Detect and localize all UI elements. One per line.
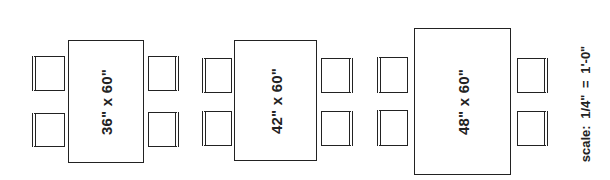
chair-t2-left-top bbox=[202, 58, 232, 93]
table-36x60: 36" x 60" bbox=[68, 40, 144, 163]
chair-t3-left-bottom bbox=[377, 110, 408, 146]
table-42x60: 42" x 60" bbox=[234, 40, 317, 161]
chair-t2-left-bottom bbox=[202, 111, 232, 146]
chair-t3-right-top bbox=[517, 58, 548, 93]
chair-t1-right-top bbox=[148, 56, 179, 91]
scale-label: scale: 1/4" = 1'-0" bbox=[578, 46, 593, 163]
chair-t1-right-bottom bbox=[148, 112, 179, 147]
table-36x60-label: 36" x 60" bbox=[98, 68, 115, 134]
chair-t1-left-top bbox=[32, 56, 65, 91]
chair-t1-left-bottom bbox=[32, 113, 65, 147]
table-48x60: 48" x 60" bbox=[414, 28, 511, 175]
table-48x60-label: 48" x 60" bbox=[454, 68, 471, 134]
table-42x60-label: 42" x 60" bbox=[267, 67, 284, 133]
chair-t2-right-top bbox=[321, 58, 353, 93]
chair-t3-right-bottom bbox=[517, 111, 548, 146]
chair-t3-left-top bbox=[377, 57, 408, 93]
chair-t2-right-bottom bbox=[321, 111, 353, 146]
